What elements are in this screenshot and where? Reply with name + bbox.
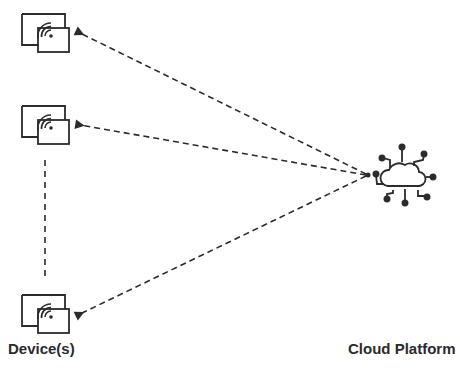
device-n-icon — [22, 295, 69, 333]
cloud-network-icon — [373, 144, 435, 205]
arrow-cloud-to-device-1 — [80, 33, 366, 174]
diagram-canvas: Device(s) Cloud Platform — [0, 0, 460, 372]
device-2-icon — [22, 106, 69, 144]
devices-label: Device(s) — [8, 340, 75, 357]
cloud-platform-label: Cloud Platform — [348, 340, 456, 357]
diagram-svg — [0, 0, 460, 372]
arrow-cloud-to-device-n — [80, 176, 366, 314]
device-1-icon — [22, 14, 69, 52]
arrow-cloud-to-device-2 — [80, 125, 366, 175]
